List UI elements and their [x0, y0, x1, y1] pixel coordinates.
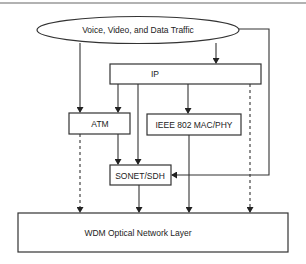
sonet-label: SONET/SDH [115, 171, 165, 181]
traffic-label: Voice, Video, and Data Traffic [82, 25, 194, 35]
ip-box [110, 64, 261, 84]
wdm-node: WDM Optical Network Layer [18, 213, 288, 252]
ip-label: IP [151, 69, 159, 79]
ieee-label: IEEE 802 MAC/PHY [155, 120, 232, 130]
sonet-node: SONET/SDH [110, 165, 171, 185]
edge-traffic-sonet [172, 29, 269, 175]
ieee-node: IEEE 802 MAC/PHY [147, 114, 241, 135]
atm-label: ATM [91, 119, 108, 129]
network-layer-diagram: Voice, Video, and Data Traffic IP ATM [0, 0, 306, 264]
traffic-node: Voice, Video, and Data Traffic [37, 17, 239, 44]
atm-node: ATM [69, 113, 130, 134]
ip-node: IP [110, 64, 261, 84]
wdm-label: WDM Optical Network Layer [84, 228, 191, 238]
